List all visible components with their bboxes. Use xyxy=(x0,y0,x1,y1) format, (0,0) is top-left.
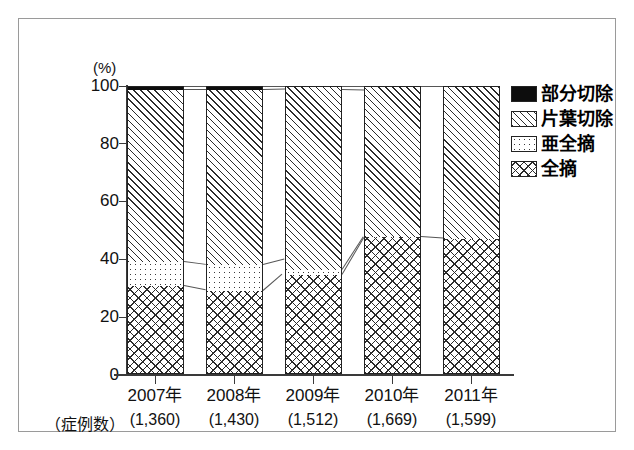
x-label-2011: 2011年 xyxy=(421,381,521,406)
legend-item-azenteki[interactable]: 亜全摘 xyxy=(511,131,613,156)
y-tick-mark xyxy=(119,201,126,202)
connector-bubun xyxy=(342,89,364,90)
bar-2008[interactable] xyxy=(206,86,263,374)
connector-azenteki-top xyxy=(263,258,285,265)
segment-zenteki-2011 xyxy=(443,239,500,374)
segment-katayou-2008 xyxy=(206,90,263,264)
x-count-2011: (1,599) xyxy=(421,411,521,429)
segment-azenteki-2008 xyxy=(206,265,263,291)
connector-top xyxy=(342,86,364,87)
bar-2009[interactable] xyxy=(285,86,342,374)
connector-top xyxy=(263,86,285,87)
y-tick-mark xyxy=(119,86,126,87)
segment-azenteki-2007 xyxy=(127,262,184,287)
y-tick-label-80: 80 xyxy=(67,135,119,152)
segment-zenteki-2008 xyxy=(206,291,263,375)
y-tick-label-40: 40 xyxy=(67,250,119,267)
connector-zenteki-top xyxy=(342,237,365,275)
y-tick-label-60: 60 xyxy=(67,192,119,209)
y-tick-label-100: 100 xyxy=(67,77,119,94)
legend-item-katayou[interactable]: 片葉切除 xyxy=(511,106,613,131)
segment-katayou-2009 xyxy=(285,86,342,270)
legend-item-zenteki[interactable]: 全摘 xyxy=(511,156,613,181)
bar-2010[interactable] xyxy=(364,86,421,374)
segment-azenteki-2009 xyxy=(285,270,342,274)
bar-2007[interactable] xyxy=(127,86,184,374)
chart-legend: 部分切除 片葉切除 亜全摘 全摘 xyxy=(511,81,613,181)
connector-zenteki-top xyxy=(263,274,282,291)
segment-bubun-2007 xyxy=(127,86,184,90)
y-tick-mark xyxy=(119,259,126,260)
legend-label-bubun: 部分切除 xyxy=(541,85,613,103)
segment-katayou-2010 xyxy=(364,87,421,237)
segment-katayou-2007 xyxy=(127,90,184,261)
legend-swatch-cross-hatch-icon xyxy=(511,161,537,177)
connector-bubun xyxy=(263,89,285,90)
y-axis-labels: 100 80 60 40 20 0 xyxy=(57,19,119,439)
segment-zenteki-2010 xyxy=(364,237,421,374)
segment-zenteki-2009 xyxy=(285,275,342,374)
segment-bubun-2008 xyxy=(206,86,263,90)
case-count-label: （症例数） xyxy=(45,411,125,435)
connector-bubun xyxy=(421,86,443,87)
legend-swatch-solid-black-icon xyxy=(511,86,537,102)
y-tick-label-20: 20 xyxy=(67,308,119,325)
chart-root: (%) 100 80 60 40 20 0 xyxy=(0,0,634,450)
legend-label-azenteki: 亜全摘 xyxy=(541,135,595,153)
bar-2011[interactable] xyxy=(443,86,500,374)
x-axis-line xyxy=(114,374,514,376)
connector-azenteki-top xyxy=(421,236,443,238)
legend-swatch-dotted-icon xyxy=(511,136,537,152)
legend-label-katayou: 片葉切除 xyxy=(541,110,613,128)
connector-bubun xyxy=(184,89,206,90)
legend-swatch-diagonal-hatch-icon xyxy=(511,111,537,127)
y-tick-mark xyxy=(119,143,126,144)
y-tick-mark xyxy=(119,317,126,318)
plot-area xyxy=(127,86,503,374)
connector-azenteki-top xyxy=(184,261,206,265)
connector-top xyxy=(184,86,206,87)
segment-zenteki-2007 xyxy=(127,286,184,374)
segment-bubun-2010 xyxy=(364,86,421,87)
segment-katayou-2011 xyxy=(443,86,500,239)
connector-zenteki-top xyxy=(184,285,206,290)
legend-label-zenteki: 全摘 xyxy=(541,160,577,178)
legend-item-bubun[interactable]: 部分切除 xyxy=(511,81,613,106)
chart-frame: (%) 100 80 60 40 20 0 xyxy=(18,18,616,432)
